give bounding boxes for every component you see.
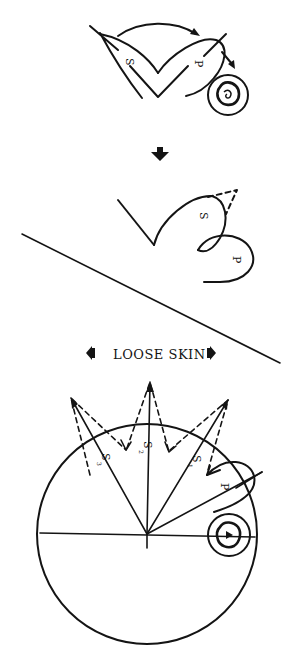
top-panel: S P [90, 24, 248, 115]
radial-s3 [71, 398, 147, 534]
label-p-bottom: P [218, 483, 231, 491]
bottom-panel: LOOSE SKIN S 3 S 2 [37, 346, 262, 644]
label-p-middle: P [230, 256, 243, 264]
arrow-right-icon [210, 346, 216, 360]
arrow-left-bar [91, 348, 95, 358]
notch-s3 [121, 440, 131, 450]
label-s1-sub: 1 [187, 464, 194, 468]
arrow-down-icon [151, 147, 169, 161]
label-s1: S [190, 455, 203, 463]
label-s3: S [99, 453, 112, 461]
flap-diagram: S P S P LOOSE SKIN [0, 0, 298, 647]
label-s2-sub: 2 [138, 450, 145, 454]
flap-v-left [118, 200, 154, 245]
label-s2: S [141, 441, 154, 449]
loose-skin-caption: LOOSE SKIN [113, 347, 206, 362]
lesion [217, 82, 239, 105]
rotation-arrow [118, 24, 196, 36]
skin-flap-s-outline [100, 34, 158, 73]
defect-circle [208, 75, 248, 115]
radial-s2 [147, 382, 150, 534]
notch-s2 [165, 442, 176, 452]
divider-line [22, 234, 280, 363]
flap-p-rotated [198, 236, 253, 283]
radial-p [147, 472, 262, 534]
middle-panel: S P [22, 190, 280, 363]
dashed-outline [208, 190, 237, 214]
label-s-top: S [123, 58, 136, 66]
flap-s-rotated [154, 196, 226, 251]
label-s3-sub: 3 [96, 462, 103, 466]
lesion-detail [224, 90, 231, 98]
label-s-middle: S [197, 212, 210, 220]
lesion-core [226, 531, 233, 539]
transition-arrow [151, 147, 169, 161]
rotation-arrowhead [190, 28, 200, 36]
label-p-top: P [192, 60, 205, 68]
